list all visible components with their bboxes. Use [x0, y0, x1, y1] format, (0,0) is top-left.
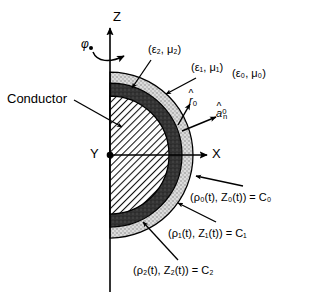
- y-axis-label: Y: [90, 147, 99, 160]
- c2-curve-label: (ρ₂(t), Z₂(t)) = C₂: [133, 265, 213, 276]
- hat-accent-icon: ^: [188, 89, 193, 99]
- layer-1-material-label: (ε₁, μ₁): [191, 62, 223, 73]
- z-axis-label: Z: [113, 10, 121, 23]
- phi-angle-label: φ: [81, 38, 89, 50]
- r-hat-glyph: ^r: [189, 95, 193, 106]
- conductor-label: Conductor: [7, 92, 67, 105]
- x-axis-label: X: [212, 147, 221, 160]
- a-hat-n-0-label: ^a0n: [216, 108, 227, 121]
- r-hat-0-label: ^r0: [189, 95, 197, 107]
- c0-curve-label: (ρ₀(t), Z₀(t)) = C₀: [190, 192, 271, 203]
- c1-curve-label: (ρ₁(t), Z₁(t)) = C₁: [168, 228, 247, 239]
- free-space-material-label: (ε₀, μ₀): [232, 68, 266, 79]
- layer-2-material-label: (ε₂, μ₂): [148, 44, 181, 55]
- phi-rotation-arrow: [93, 52, 124, 61]
- c0-leader: [196, 176, 243, 186]
- phi-anchor-dot: [89, 46, 93, 50]
- a-hat-glyph: ^a: [216, 108, 222, 119]
- c1-leader: [178, 203, 216, 222]
- hat-accent-icon: ^: [217, 102, 222, 112]
- origin-y-axis-dot: [107, 152, 114, 159]
